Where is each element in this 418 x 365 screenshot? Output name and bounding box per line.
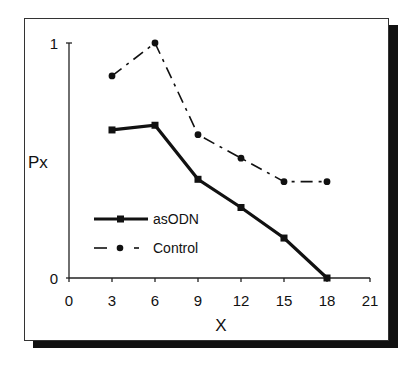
x-tick-label: 15 <box>276 292 293 309</box>
legend-item-control: Control <box>94 240 198 256</box>
circle-marker-icon <box>195 131 202 138</box>
series-line <box>112 43 327 182</box>
line-chart: 1 0 036912151821 Px X asODN Control <box>0 0 418 365</box>
square-marker-icon <box>195 176 202 183</box>
circle-marker-icon <box>281 178 288 185</box>
series-line <box>112 125 327 278</box>
x-tick-label: 12 <box>233 292 250 309</box>
series-control <box>109 40 331 185</box>
circle-marker-icon <box>109 73 116 80</box>
square-marker-icon <box>324 275 331 282</box>
y-tick-label-1: 1 <box>50 35 58 52</box>
square-marker-icon <box>281 235 288 242</box>
x-tick-label: 0 <box>65 292 73 309</box>
x-tick-label: 6 <box>151 292 159 309</box>
y-axis-title: Px <box>28 153 48 172</box>
x-tick-labels: 036912151821 <box>65 292 379 309</box>
square-marker-icon <box>238 204 245 211</box>
circle-marker-icon <box>238 155 245 162</box>
circle-marker-icon <box>117 245 124 252</box>
legend: asODN Control <box>94 211 199 256</box>
square-marker-icon <box>152 122 159 129</box>
x-tick-label: 9 <box>194 292 202 309</box>
x-tick-label: 3 <box>108 292 116 309</box>
square-marker-icon <box>117 216 124 223</box>
x-axis-title: X <box>215 316 226 335</box>
circle-marker-icon <box>324 178 331 185</box>
series-asodn <box>109 122 331 282</box>
y-tick-label-0: 0 <box>50 270 58 287</box>
legend-label-control: Control <box>153 240 198 256</box>
square-marker-icon <box>109 126 116 133</box>
legend-label-asodn: asODN <box>153 211 199 227</box>
circle-marker-icon <box>152 40 159 47</box>
y-axis <box>66 43 72 278</box>
x-tick-label: 21 <box>362 292 379 309</box>
legend-item-asodn: asODN <box>94 211 199 227</box>
x-tick-label: 18 <box>319 292 336 309</box>
